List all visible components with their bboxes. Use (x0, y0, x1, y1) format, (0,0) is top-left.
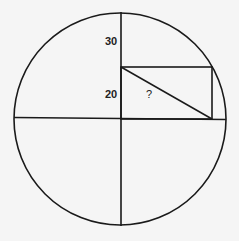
label-question: ? (146, 89, 152, 100)
label-20: 20 (105, 89, 117, 100)
puzzle-diagram: 30 20 ? (0, 0, 239, 241)
label-30: 30 (105, 36, 117, 47)
circle-figure (0, 0, 239, 241)
rectangle-diagonal (121, 67, 212, 119)
